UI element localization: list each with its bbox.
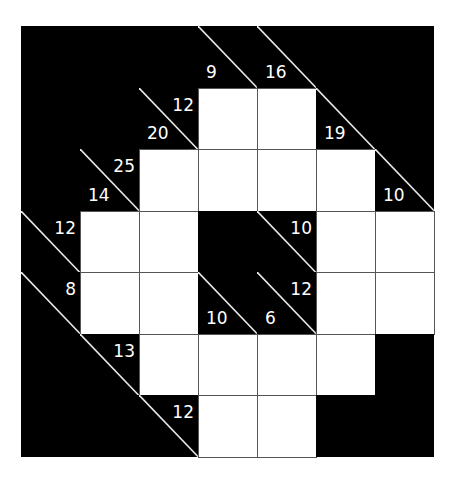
entry-cell[interactable]: [139, 211, 199, 274]
clue-down-sum: 20: [147, 125, 169, 142]
clue-down-sum: 6: [265, 310, 276, 327]
entry-cell[interactable]: [80, 211, 140, 274]
clue-cell: 10: [375, 149, 434, 211]
block-cell: [80, 88, 139, 150]
block-cell: [375, 26, 434, 88]
block-cell: [21, 26, 80, 88]
entry-cell[interactable]: [316, 272, 376, 335]
entry-cell[interactable]: [257, 395, 317, 458]
clue-cell: 12: [21, 211, 80, 273]
clue-across-sum: 25: [113, 158, 135, 175]
entry-cell[interactable]: [257, 88, 317, 151]
clue-cell: 2514: [80, 149, 139, 211]
entry-cell[interactable]: [198, 149, 258, 212]
entry-cell[interactable]: [316, 334, 376, 397]
clue-down-sum: 10: [383, 187, 405, 204]
clue-cell: 1220: [139, 88, 198, 150]
clue-across-sum: 10: [290, 220, 312, 237]
block-cell: [375, 334, 434, 396]
clue-cell: 126: [257, 272, 316, 334]
clue-cell: 12: [139, 395, 198, 457]
entry-cell[interactable]: [257, 149, 317, 212]
entry-cell[interactable]: [257, 334, 317, 397]
block-cell: [21, 149, 80, 211]
entry-cell[interactable]: [375, 211, 435, 274]
clue-down-sum: 14: [88, 187, 110, 204]
entry-cell[interactable]: [139, 334, 199, 397]
entry-cell[interactable]: [139, 149, 199, 212]
block-cell: [80, 26, 139, 88]
block-cell: [21, 334, 80, 396]
block-cell: [198, 211, 257, 273]
clue-down-sum: 10: [206, 310, 228, 327]
entry-cell[interactable]: [198, 395, 258, 458]
entry-cell[interactable]: [139, 272, 199, 335]
clue-across-sum: 12: [172, 97, 194, 114]
entry-cell[interactable]: [198, 88, 258, 151]
block-cell: [316, 395, 375, 457]
entry-cell[interactable]: [316, 211, 376, 274]
block-cell: [21, 88, 80, 150]
clue-across-sum: 12: [290, 281, 312, 298]
clue-across-sum: 13: [113, 343, 135, 360]
clue-across-sum: 8: [65, 281, 76, 298]
clue-cell: 13: [80, 334, 139, 396]
block-cell: [139, 26, 198, 88]
clue-across-sum: 12: [54, 220, 76, 237]
block-cell: [375, 88, 434, 150]
clue-cell: 8: [21, 272, 80, 334]
clue-cell: 10: [198, 272, 257, 334]
block-cell: [21, 395, 80, 457]
clue-cell: 19: [316, 88, 375, 150]
entry-cell[interactable]: [375, 272, 435, 335]
block-cell: [316, 26, 375, 88]
clue-down-sum: 16: [265, 64, 287, 81]
kakuro-board: 91612201925141012108101261312: [21, 26, 434, 457]
clue-down-sum: 19: [324, 125, 346, 142]
clue-down-sum: 9: [206, 64, 217, 81]
clue-cell: 10: [257, 211, 316, 273]
entry-cell[interactable]: [198, 334, 258, 397]
clue-cell: 9: [198, 26, 257, 88]
entry-cell[interactable]: [80, 272, 140, 335]
block-cell: [375, 395, 434, 457]
entry-cell[interactable]: [316, 149, 376, 212]
clue-across-sum: 12: [172, 404, 194, 421]
clue-cell: 16: [257, 26, 316, 88]
block-cell: [80, 395, 139, 457]
